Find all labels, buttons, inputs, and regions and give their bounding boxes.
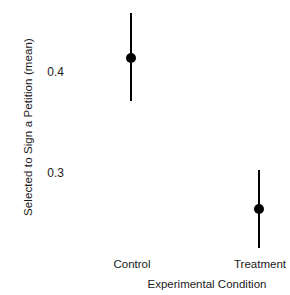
x-axis-label-container: Experimental Condition [0, 278, 290, 291]
y-tick-label-0.3: 0.3 [24, 167, 64, 179]
y-tick-label-0.4: 0.4 [24, 66, 64, 78]
data-point-treatment [254, 204, 264, 214]
x-tick-label-control: Control [106, 258, 158, 271]
x-tick-label-treatment: Treatment [229, 258, 290, 271]
x-axis-label: Experimental Condition [148, 278, 267, 291]
data-point-control [126, 53, 136, 63]
y-axis-ticks: 0.4 0.3 [24, 0, 64, 250]
chart-panel: Selected to Sign a Petition (mean) 0.4 0… [0, 0, 290, 295]
